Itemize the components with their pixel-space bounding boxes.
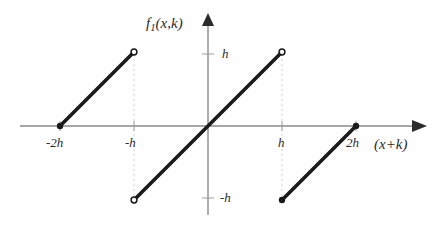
y-axis-label: f1(x,k)	[146, 16, 183, 33]
filled-dot-minus-2h-0	[57, 123, 63, 129]
x-tick-label-plus-h: h	[278, 136, 285, 149]
y-tick-label-h: h	[222, 47, 229, 60]
x-axis-arrowhead-icon	[412, 120, 427, 132]
x-tick-label-plus-2h: 2h	[346, 136, 359, 149]
filled-dot-plus-2h-0	[353, 123, 359, 129]
open-circle-plus-h-h	[279, 49, 285, 55]
y-tick-label-minus-h: -h	[220, 191, 231, 204]
segment-right	[282, 126, 356, 200]
y-axis-label-args: (x,k)	[156, 15, 183, 31]
open-circle-minus-h-h	[131, 49, 137, 55]
segment-left	[60, 52, 134, 126]
axes	[20, 13, 427, 215]
open-circle-minus-h-minus-h	[131, 197, 137, 203]
x-axis-label: (x+k)	[374, 137, 407, 152]
figure-canvas: f1(x,k) (x+k) -2h -h h 2h h -h	[0, 0, 438, 228]
x-tick-label-minus-h: -h	[125, 136, 136, 149]
y-axis-arrowhead-icon	[202, 13, 214, 26]
x-tick-label-minus-2h: -2h	[46, 136, 63, 149]
function-plot	[0, 0, 438, 228]
filled-dot-plus-h-minus-h	[279, 197, 285, 203]
